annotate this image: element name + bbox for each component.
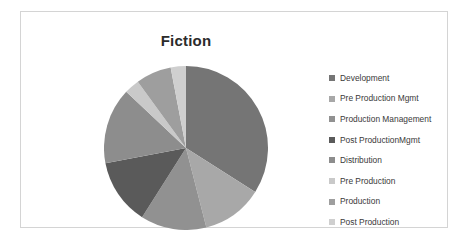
pie-chart: [104, 66, 268, 230]
legend-swatch-icon: [329, 116, 335, 122]
legend-item-label: Development: [340, 74, 389, 82]
chart-title: Fiction: [61, 32, 311, 49]
legend-item[interactable]: Post Production: [329, 212, 467, 232]
chart-frame: Fiction DevelopmentPre Production MgmtPr…: [20, 11, 448, 228]
legend-item-label: Production Management: [340, 115, 431, 123]
legend-item[interactable]: Production Management: [329, 109, 467, 129]
legend-item[interactable]: Development: [329, 68, 467, 88]
legend-item[interactable]: Pre Production Mgmt: [329, 89, 467, 109]
legend-swatch-icon: [329, 219, 335, 225]
legend-item-label: Post Production: [340, 218, 399, 226]
chart-legend: DevelopmentPre Production MgmtProduction…: [329, 68, 467, 233]
pie-slice-group: [104, 66, 268, 230]
legend-swatch-icon: [329, 137, 335, 143]
legend-item[interactable]: Post ProductionMgmt: [329, 130, 467, 150]
legend-item[interactable]: Production: [329, 192, 467, 212]
legend-swatch-icon: [329, 157, 335, 163]
legend-swatch-icon: [329, 178, 335, 184]
legend-item-label: Pre Production: [340, 177, 395, 185]
legend-item-label: Production: [340, 197, 380, 205]
legend-item-label: Distribution: [340, 156, 382, 164]
legend-item-label: Post ProductionMgmt: [340, 136, 420, 144]
legend-swatch-icon: [329, 199, 335, 205]
legend-swatch-icon: [329, 96, 335, 102]
legend-item[interactable]: Pre Production: [329, 171, 467, 191]
legend-item-label: Pre Production Mgmt: [340, 94, 419, 102]
pie-chart-svg: [104, 66, 268, 230]
legend-swatch-icon: [329, 75, 335, 81]
legend-item[interactable]: Distribution: [329, 150, 467, 170]
